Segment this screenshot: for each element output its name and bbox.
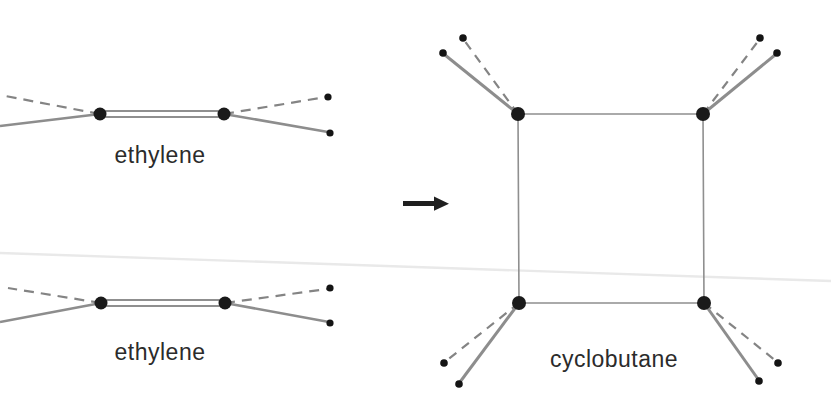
hydrogen-atom (440, 359, 448, 367)
hydrogen-atom (324, 93, 331, 100)
ch-bond-dashed (225, 289, 327, 303)
carbon-atom (219, 297, 232, 310)
molecule-label: cyclobutane (550, 346, 678, 372)
ch-bond-solid (0, 114, 100, 126)
hydrogen-atom (755, 377, 763, 385)
hydrogen-atom (455, 380, 463, 388)
scan-artifact-line (0, 253, 831, 281)
ch-bond-dashed (0, 95, 100, 114)
molecule-cyclobutane: cyclobutane (439, 34, 782, 388)
hydrogen-atom (439, 49, 447, 57)
molecule-ethylene-top: ethylene (0, 93, 334, 168)
figure-canvas: ethylene ethylene (0, 0, 831, 407)
carbon-atom (511, 107, 525, 121)
ch-bond-solid (225, 303, 329, 322)
reaction-arrow-icon (403, 197, 449, 211)
ch-bond-dashed (224, 97, 326, 114)
ch-bond-solid (704, 303, 758, 379)
molecule-ethylene-bottom: ethylene (0, 284, 334, 365)
hydrogen-atom (459, 34, 467, 42)
carbon-atom (218, 108, 231, 121)
hydrogen-atom (326, 284, 333, 291)
ch-bond-solid (703, 55, 775, 114)
carbon-atom (95, 297, 108, 310)
carbon-atom (697, 296, 711, 310)
hydrogen-atom (773, 49, 781, 57)
ch-bond-dashed (703, 40, 759, 114)
hydrogen-atom (756, 34, 764, 42)
carbon-atom (512, 296, 526, 310)
ch-bond-solid (224, 114, 328, 132)
ch-bond-solid (445, 55, 518, 114)
molecule-label: ethylene (115, 142, 206, 168)
carbon-atom (94, 108, 107, 121)
ch-bond-solid (460, 303, 519, 382)
hydrogen-atom (326, 319, 333, 326)
hydrogen-atom (774, 359, 782, 367)
molecule-label: ethylene (115, 339, 206, 365)
ch-bond-dashed (8, 288, 101, 303)
right-arrow-icon (403, 197, 449, 211)
carbon-atom (696, 107, 710, 121)
hydrogen-atom (326, 129, 333, 136)
ch-bond-solid (0, 303, 101, 322)
